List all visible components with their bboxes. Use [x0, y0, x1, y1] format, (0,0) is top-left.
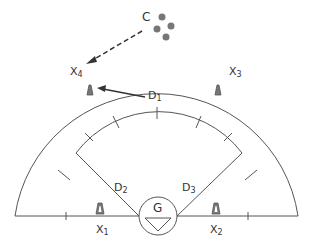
- ball-icon: [168, 23, 175, 30]
- d2-line: [76, 153, 139, 216]
- x2-label: X2: [210, 224, 223, 237]
- ball-icon: [154, 26, 161, 33]
- d1-label: D1: [148, 90, 162, 103]
- d3-label: D3: [182, 182, 196, 195]
- ball-icon: [163, 34, 170, 41]
- drill-diagram: C G X4 X3 X1 X2 D1 D2 D3: [0, 0, 312, 250]
- cone-icon: [87, 85, 93, 95]
- ball-cluster: [154, 14, 175, 41]
- arrowhead-icon: [86, 56, 97, 64]
- ball-icon: [159, 14, 166, 21]
- x4-label: X4: [70, 66, 83, 79]
- pass-arrow: [91, 31, 142, 61]
- d2-label: D2: [114, 182, 128, 195]
- coach-label: C: [142, 11, 150, 23]
- cone-icon: [215, 85, 221, 95]
- cone-icon: [212, 203, 220, 214]
- x1-label: X1: [96, 224, 109, 237]
- x3-label: X3: [229, 66, 242, 79]
- inner-arc: [76, 112, 242, 153]
- d1-arrow: [103, 89, 145, 97]
- cone-icon: [96, 203, 104, 214]
- goal-label: G: [153, 202, 162, 214]
- arrowhead-icon: [97, 85, 106, 92]
